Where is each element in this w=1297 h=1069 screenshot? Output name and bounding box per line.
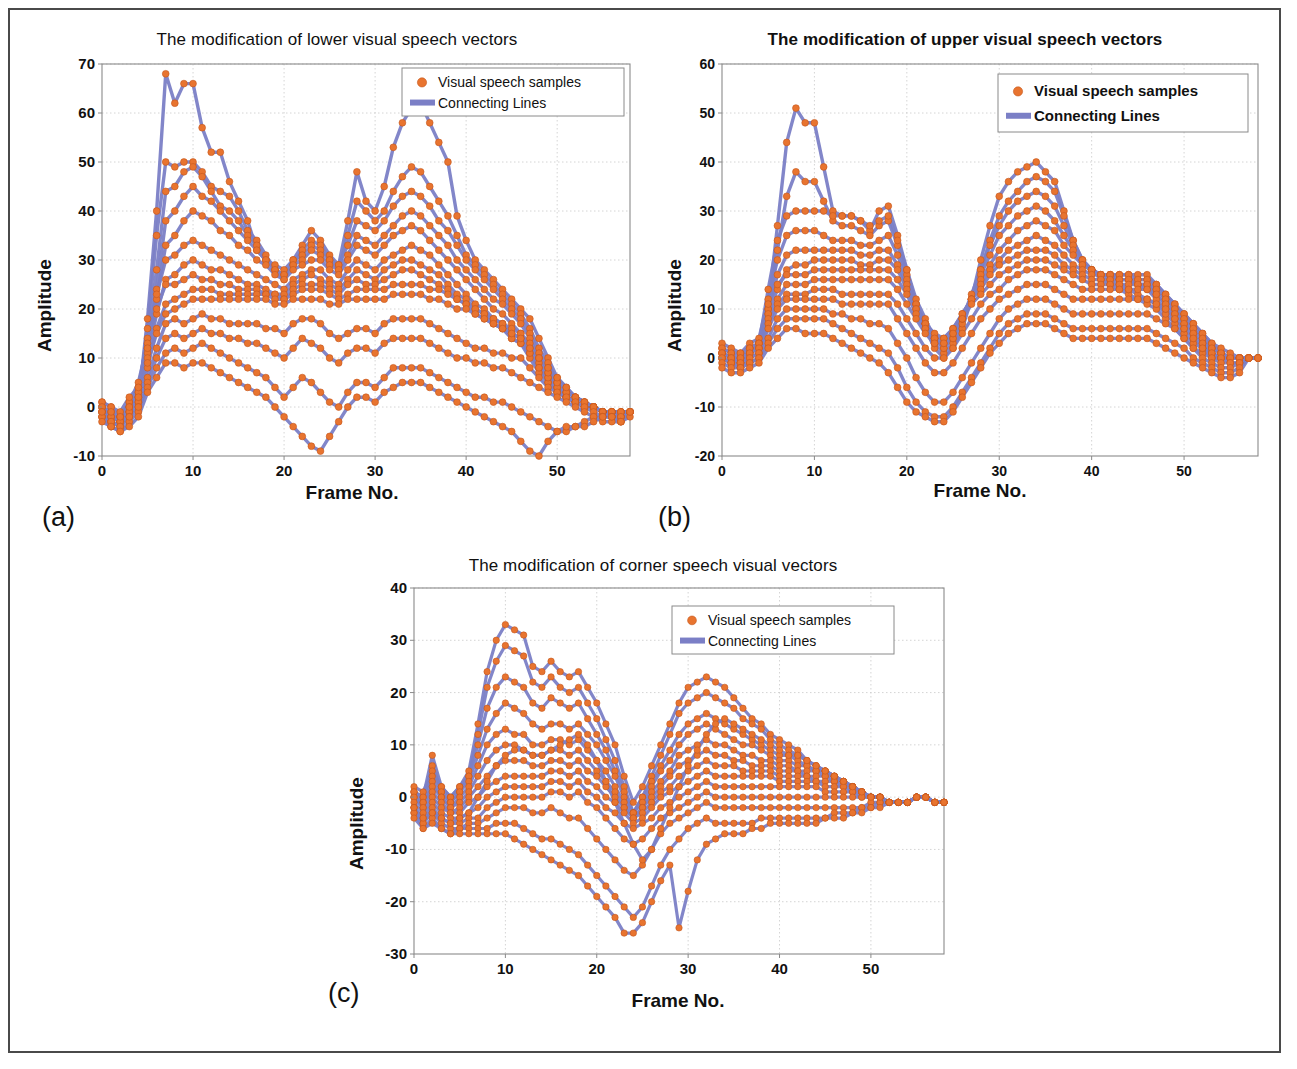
svg-text:50: 50 xyxy=(1176,463,1192,479)
svg-text:50: 50 xyxy=(863,960,880,977)
svg-text:10: 10 xyxy=(497,960,514,977)
svg-text:0: 0 xyxy=(410,960,418,977)
legend: Visual speech samplesConnecting Lines xyxy=(998,74,1248,132)
svg-text:0: 0 xyxy=(399,788,407,805)
panel-b-xlabel: Frame No. xyxy=(880,480,1080,502)
panel-a: The modification of lower visual speech … xyxy=(22,22,652,542)
panel-a-caption: (a) xyxy=(42,502,75,533)
panel-a-xlabel: Frame No. xyxy=(252,482,452,504)
svg-text:40: 40 xyxy=(458,462,475,479)
svg-text:30: 30 xyxy=(390,631,407,648)
svg-text:20: 20 xyxy=(390,684,407,701)
svg-text:50: 50 xyxy=(549,462,566,479)
legend: Visual speech samplesConnecting Lines xyxy=(402,68,624,116)
svg-text:20: 20 xyxy=(276,462,293,479)
svg-text:-10: -10 xyxy=(73,447,95,464)
legend: Visual speech samplesConnecting Lines xyxy=(672,606,894,654)
svg-text:0: 0 xyxy=(98,462,106,479)
panel-b: The modification of upper visual speech … xyxy=(650,22,1280,542)
svg-text:Visual speech samples: Visual speech samples xyxy=(708,612,851,628)
svg-text:60: 60 xyxy=(699,56,715,72)
svg-text:Visual speech samples: Visual speech samples xyxy=(1034,82,1198,99)
svg-text:10: 10 xyxy=(807,463,823,479)
svg-text:0: 0 xyxy=(707,350,715,366)
svg-text:0: 0 xyxy=(87,398,95,415)
svg-text:10: 10 xyxy=(390,736,407,753)
svg-text:Visual speech samples: Visual speech samples xyxy=(438,74,581,90)
svg-text:Connecting Lines: Connecting Lines xyxy=(438,95,546,111)
svg-text:70: 70 xyxy=(78,55,95,72)
svg-text:30: 30 xyxy=(991,463,1007,479)
svg-text:10: 10 xyxy=(699,301,715,317)
panel-b-plot: 01020304050-20-100102030405060Visual spe… xyxy=(650,46,1280,496)
svg-text:-20: -20 xyxy=(385,893,407,910)
svg-text:Connecting Lines: Connecting Lines xyxy=(1034,107,1160,124)
svg-text:40: 40 xyxy=(1084,463,1100,479)
svg-text:40: 40 xyxy=(771,960,788,977)
svg-text:30: 30 xyxy=(367,462,384,479)
svg-text:20: 20 xyxy=(699,252,715,268)
panel-c-xlabel: Frame No. xyxy=(578,990,778,1012)
svg-text:0: 0 xyxy=(718,463,726,479)
svg-text:Connecting Lines: Connecting Lines xyxy=(708,633,816,649)
svg-text:30: 30 xyxy=(680,960,697,977)
svg-text:-20: -20 xyxy=(695,448,715,464)
panel-a-plot: 01020304050-10010203040506070Visual spee… xyxy=(22,46,652,496)
panel-c-caption: (c) xyxy=(328,978,359,1009)
svg-text:-30: -30 xyxy=(385,945,407,962)
svg-text:50: 50 xyxy=(78,153,95,170)
svg-text:30: 30 xyxy=(78,251,95,268)
panel-c: The modification of corner speech visual… xyxy=(328,550,978,1050)
svg-text:40: 40 xyxy=(78,202,95,219)
panel-c-plot: 01020304050-30-20-10010203040Visual spee… xyxy=(328,572,978,992)
svg-text:20: 20 xyxy=(899,463,915,479)
svg-text:10: 10 xyxy=(185,462,202,479)
svg-text:20: 20 xyxy=(78,300,95,317)
svg-text:20: 20 xyxy=(588,960,605,977)
svg-text:40: 40 xyxy=(390,579,407,596)
svg-text:10: 10 xyxy=(78,349,95,366)
svg-text:60: 60 xyxy=(78,104,95,121)
panel-b-caption: (b) xyxy=(658,502,691,533)
svg-text:30: 30 xyxy=(699,203,715,219)
svg-text:40: 40 xyxy=(699,154,715,170)
figure-frame: The modification of lower visual speech … xyxy=(8,8,1281,1053)
svg-text:-10: -10 xyxy=(385,840,407,857)
svg-text:-10: -10 xyxy=(695,399,715,415)
svg-text:50: 50 xyxy=(699,105,715,121)
